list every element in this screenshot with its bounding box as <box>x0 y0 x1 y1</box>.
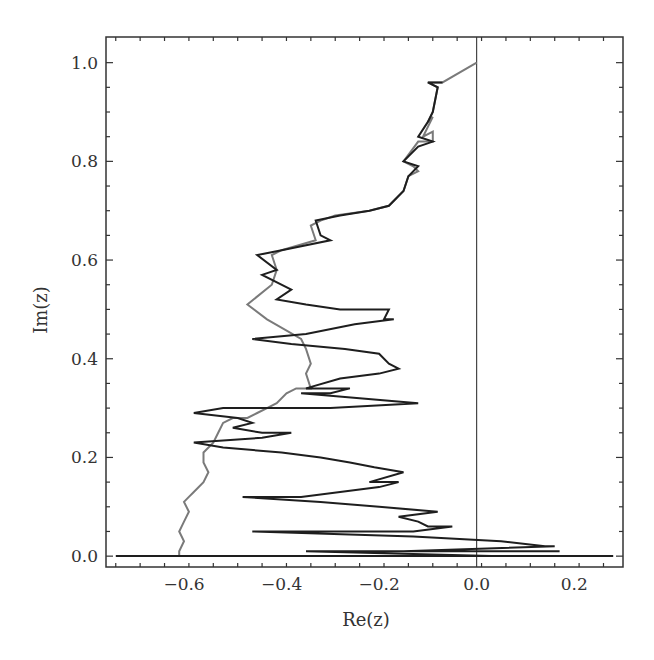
y-tick-label: 0.0 <box>71 546 98 566</box>
y-tick-label: 0.4 <box>71 349 98 369</box>
x-axis-label: Re(z) <box>342 609 390 630</box>
series-trajectory-gray <box>179 63 477 556</box>
chart: −0.6−0.4−0.20.00.2 0.00.20.40.60.81.0 Re… <box>0 0 654 660</box>
y-tick-label: 1.0 <box>71 53 98 73</box>
series-trajectory-black <box>116 82 613 556</box>
axes-frame <box>106 37 623 567</box>
y-tick-label: 0.2 <box>71 447 98 467</box>
plot-area: −0.6−0.4−0.20.00.2 0.00.20.40.60.81.0 <box>71 37 623 594</box>
y-tick-label: 0.8 <box>71 151 98 171</box>
x-tick-label: −0.6 <box>163 574 204 594</box>
y-tick-label: 0.6 <box>71 250 98 270</box>
y-axis-label: Im(z) <box>30 286 51 334</box>
x-tick-label: −0.2 <box>358 574 399 594</box>
x-tick-label: 0.0 <box>463 574 490 594</box>
data-series <box>116 63 613 556</box>
x-tick-label: 0.2 <box>561 574 588 594</box>
x-tick-label: −0.4 <box>261 574 302 594</box>
